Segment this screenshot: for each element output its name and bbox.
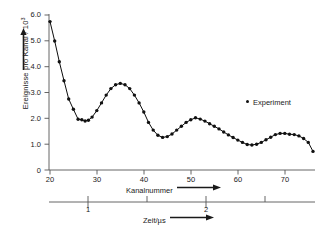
secondary-axis-arrow-icon (170, 214, 214, 221)
chart-legend: Experiment (246, 98, 291, 107)
x-tick-label-30: 30 (87, 175, 107, 184)
secondary-axis-label-text: Zeit/µs (143, 216, 166, 225)
chart-figure: Ereignisse pro Kanal / 103 (0, 0, 330, 239)
x-tick-label-70: 70 (275, 175, 295, 184)
x-axis-arrow-icon (177, 184, 221, 191)
y-tick-label-1: 1.0 (19, 140, 41, 149)
x-axis-label: Kanalnummer (126, 184, 221, 195)
y-axis-ticks (45, 15, 50, 170)
secondary-tick-label-2: 2 (196, 205, 216, 214)
data-point-markers (48, 20, 314, 153)
legend-marker-dot-icon (246, 100, 249, 103)
x-axis-ticks (50, 170, 285, 175)
x-tick-label-50: 50 (181, 175, 201, 184)
y-tick-label-6: 6.0 (19, 10, 41, 19)
y-tick-label-5: 5.0 (19, 36, 41, 45)
secondary-axis-label: Zeit/µs (143, 214, 214, 225)
y-tick-label-0: 0 (19, 166, 41, 175)
x-tick-label-60: 60 (228, 175, 248, 184)
y-tick-label-2: 2.0 (19, 114, 41, 123)
y-tick-label-4: 4.0 (19, 62, 41, 71)
x-tick-label-20: 20 (40, 175, 60, 184)
chart-canvas (0, 0, 330, 239)
secondary-tick-label-1: 1 (78, 205, 98, 214)
data-curve-experiment (50, 22, 313, 152)
legend-label-experiment: Experiment (253, 98, 291, 107)
y-tick-label-3: 3.0 (19, 88, 41, 97)
x-axis-label-text: Kanalnummer (126, 186, 173, 195)
x-tick-label-40: 40 (134, 175, 154, 184)
